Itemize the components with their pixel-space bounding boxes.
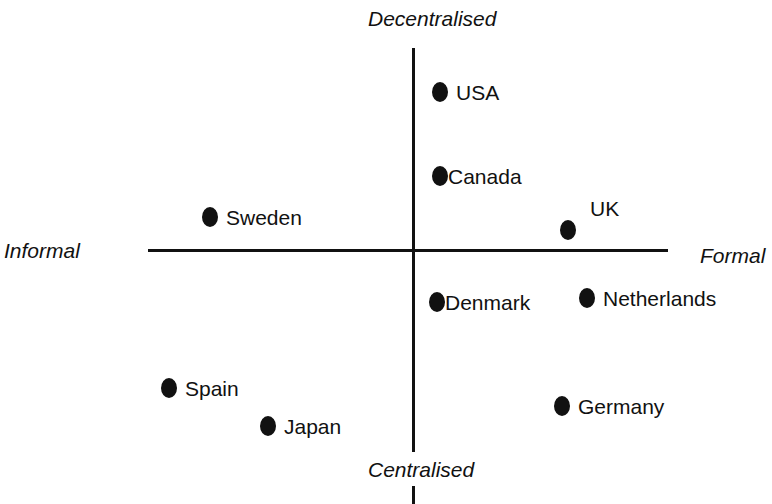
scatter-chart: Decentralised Centralised Informal Forma… bbox=[0, 0, 772, 504]
point-label: UK bbox=[590, 198, 619, 219]
point-label: USA bbox=[456, 82, 499, 103]
point-label: Sweden bbox=[226, 207, 302, 228]
point-label: Japan bbox=[284, 416, 341, 437]
point-marker bbox=[432, 82, 448, 102]
axis-label-informal: Informal bbox=[4, 240, 80, 261]
point-label: Spain bbox=[185, 378, 239, 399]
point-marker bbox=[429, 292, 445, 312]
vertical-axis-line-lower bbox=[412, 486, 415, 504]
vertical-axis-line-upper bbox=[412, 48, 415, 452]
axis-label-centralised: Centralised bbox=[368, 459, 474, 480]
point-label: Canada bbox=[448, 166, 522, 187]
point-label: Germany bbox=[578, 396, 664, 417]
horizontal-axis-line bbox=[148, 249, 668, 252]
point-marker bbox=[161, 378, 177, 398]
point-marker bbox=[560, 220, 576, 240]
point-marker bbox=[579, 288, 595, 308]
point-marker bbox=[554, 396, 570, 416]
point-marker bbox=[202, 207, 218, 227]
point-marker bbox=[432, 166, 448, 186]
axis-label-formal: Formal bbox=[700, 245, 765, 266]
axis-label-decentralised: Decentralised bbox=[368, 8, 496, 29]
point-marker bbox=[260, 416, 276, 436]
point-label: Netherlands bbox=[603, 288, 716, 309]
point-label: Denmark bbox=[445, 292, 530, 313]
